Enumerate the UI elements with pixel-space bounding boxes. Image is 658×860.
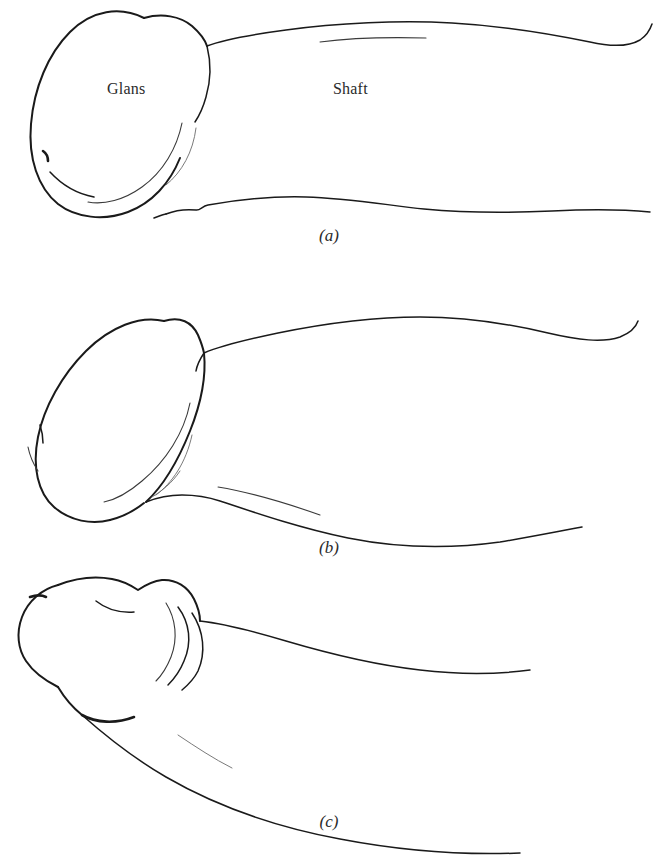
meatus-slit-c: [30, 596, 46, 598]
ventral-notch-a: [154, 214, 166, 218]
label-shaft: Shaft: [333, 80, 368, 98]
glans-top-shoulder-a: [144, 16, 207, 46]
corona-nick-b: [196, 353, 204, 371]
corona-ridge-a: [195, 46, 210, 122]
glans-inner-sweep-b: [104, 403, 190, 502]
caption-panel-a: (a): [0, 226, 658, 246]
caption-panel-b: (b): [0, 538, 658, 558]
glans-inner-curve-a: [50, 172, 94, 197]
glans-bottom-b: [110, 503, 144, 520]
shaft-top-contour-b: [204, 317, 638, 353]
shaft-ventral-highlight-c: [178, 735, 232, 768]
glans-outline-b: [36, 319, 164, 522]
panel-b-drawing: [0, 285, 658, 575]
head-outline-c: [19, 585, 58, 687]
meatus-slit-a: [43, 151, 48, 161]
shaft-ventral-highlight-b: [218, 487, 320, 515]
caption-panel-c: (c): [0, 812, 658, 832]
glans-inner-sweep-a: [88, 123, 182, 203]
meatus-slit-b: [40, 425, 43, 443]
foreskin-fold-2-c: [182, 613, 203, 690]
shaft-bottom-contour-a: [166, 197, 650, 214]
glans-apex-b: [164, 319, 204, 353]
head-bottom-contour-c: [58, 687, 82, 715]
head-crease-c: [96, 601, 134, 612]
frenulum-arc-c: [82, 715, 134, 722]
foreskin-fold-1-c: [168, 607, 189, 685]
panel-b: [0, 285, 658, 575]
shaft-dorsal-detail-a: [320, 38, 426, 42]
label-glans: Glans: [107, 80, 145, 98]
head-top-contour-c: [58, 578, 200, 621]
shaft-top-contour-a: [207, 22, 652, 46]
shaft-bottom-contour-c: [82, 715, 520, 854]
foreskin-fold-3-c: [156, 603, 175, 681]
figure-root: Glans Shaft (a): [0, 0, 658, 860]
shaft-top-contour-c: [200, 621, 530, 673]
corona-ridge-b: [146, 353, 204, 502]
glans-outline-a: [30, 11, 180, 217]
